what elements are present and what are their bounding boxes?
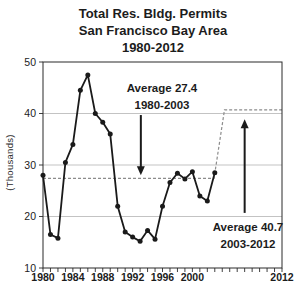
y-tick-label: 10 bbox=[24, 262, 36, 274]
y-tick-label: 20 bbox=[24, 210, 36, 222]
data-point-marker bbox=[70, 142, 75, 147]
down-arrow-head bbox=[137, 166, 145, 175]
x-tick-label: 1996 bbox=[151, 271, 175, 283]
data-point-marker bbox=[63, 160, 68, 165]
data-point-marker bbox=[130, 235, 135, 240]
y-tick-label: 30 bbox=[24, 159, 36, 171]
annotation-average-2003-2012: Average 40.7 2003-2012 bbox=[198, 219, 298, 252]
data-point-marker bbox=[123, 229, 128, 234]
data-point-marker bbox=[48, 232, 53, 237]
data-point-marker bbox=[167, 180, 172, 185]
data-point-marker bbox=[160, 204, 165, 209]
data-point-marker bbox=[93, 111, 98, 116]
data-point-marker bbox=[190, 169, 195, 174]
x-tick-label: 2000 bbox=[181, 271, 205, 283]
annotation-average-2003-2012-range: 2003-2012 bbox=[198, 236, 298, 253]
data-point-marker bbox=[55, 236, 60, 241]
y-tick-label: 40 bbox=[24, 107, 36, 119]
annotation-average-1980-2003: Average 27.4 1980-2003 bbox=[112, 80, 212, 113]
data-point-marker bbox=[182, 176, 187, 181]
data-point-marker bbox=[212, 170, 217, 175]
up-arrow-head bbox=[241, 119, 249, 128]
data-point-marker bbox=[100, 120, 105, 125]
x-tick-label: 2012 bbox=[270, 271, 294, 283]
x-tick-label: 1984 bbox=[61, 271, 85, 283]
annotation-average-1980-2003-range: 1980-2003 bbox=[112, 97, 212, 114]
y-tick-label: 50 bbox=[24, 56, 36, 68]
data-point-marker bbox=[145, 228, 150, 233]
data-point-marker bbox=[115, 204, 120, 209]
annotation-average-1980-2003-value: Average 27.4 bbox=[112, 80, 212, 97]
data-point-marker bbox=[197, 193, 202, 198]
x-tick-label: 1988 bbox=[91, 271, 115, 283]
data-point-marker bbox=[138, 239, 143, 244]
annotation-average-2003-2012-value: Average 40.7 bbox=[198, 219, 298, 236]
plot-area: 19801984198819921996200020121020304050 bbox=[0, 0, 301, 303]
data-point-marker bbox=[41, 173, 46, 178]
average-dashed-line bbox=[43, 110, 282, 178]
x-tick-label: 1992 bbox=[121, 271, 145, 283]
data-point-marker bbox=[85, 72, 90, 77]
data-point-marker bbox=[205, 199, 210, 204]
data-point-marker bbox=[153, 237, 158, 242]
data-point-marker bbox=[108, 132, 113, 137]
data-point-marker bbox=[175, 171, 180, 176]
chart: Total Res. Bldg. Permits San Francisco B… bbox=[0, 0, 301, 303]
data-point-marker bbox=[78, 88, 83, 93]
